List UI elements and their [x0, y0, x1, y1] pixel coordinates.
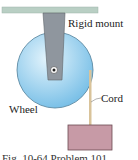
label-rigid-mount: Rigid mount — [68, 18, 123, 29]
label-cord: Cord — [101, 93, 123, 104]
figure-caption: Fig. 10-64 Problem 101. — [2, 153, 110, 160]
cord-leader — [91, 98, 101, 102]
label-wheel: Wheel — [9, 104, 38, 115]
axle-center — [53, 69, 56, 72]
ceiling-bar — [2, 7, 98, 13]
hanging-block — [68, 125, 112, 150]
cord — [89, 70, 92, 125]
